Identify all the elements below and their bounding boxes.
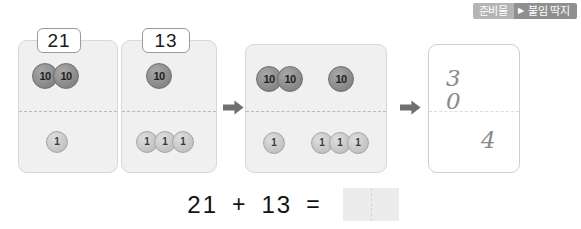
coin-group-tens: 10 10 <box>256 66 303 92</box>
card-13-ones-area: 1 1 1 <box>122 112 216 172</box>
card-13-label-text: 13 <box>154 30 177 52</box>
equation-plus-sign: + <box>232 191 247 218</box>
card-21-label-text: 21 <box>47 30 70 52</box>
coin-group-ones: 1 1 1 <box>311 132 369 154</box>
one-coin: 1 <box>46 131 68 153</box>
ten-coin: 10 <box>328 66 354 92</box>
card-combined: 10 10 10 1 1 1 1 <box>245 44 387 173</box>
materials-badge: 준비물 ▶ 붙임 딱지 <box>473 3 577 19</box>
equation-left-operand: 21 <box>187 191 218 219</box>
card-13-label-tab: 13 <box>142 28 190 53</box>
coin-group-tens: 10 10 <box>32 63 79 89</box>
badge-materials-label: 준비물 <box>473 3 514 19</box>
card-21: 10 10 1 <box>18 40 118 173</box>
card-answer[interactable]: 3 0 4 <box>428 44 520 173</box>
coin-group-tens: 10 <box>328 66 354 92</box>
answer-box-divider <box>371 188 372 221</box>
answer-ones-digit: 4 <box>481 129 496 152</box>
badge-arrow-icon: ▶ <box>514 3 527 19</box>
arrow-right-icon <box>399 99 421 115</box>
card-21-label-tab: 21 <box>37 28 81 53</box>
card-21-ones-area: 1 <box>19 112 117 172</box>
arrow-right-icon <box>222 99 244 115</box>
equation-right-operand: 13 <box>262 191 293 219</box>
coin-group-ones: 1 <box>263 132 285 154</box>
one-coin: 1 <box>263 132 285 154</box>
card-13: 10 1 1 1 <box>121 40 217 173</box>
equation-answer-input[interactable] <box>343 188 399 221</box>
equation-row: 21 + 13 = <box>0 188 581 221</box>
coin-group-ones: 1 1 1 <box>136 131 194 153</box>
coin-group-tens: 10 <box>146 63 172 89</box>
ten-coin: 10 <box>277 66 303 92</box>
ten-coin: 10 <box>53 63 79 89</box>
badge-sticker-label: 붙임 딱지 <box>527 3 577 19</box>
ten-coin: 10 <box>146 63 172 89</box>
one-coin: 1 <box>347 132 369 154</box>
card-combined-ones-area: 1 1 1 1 <box>246 114 386 172</box>
answer-tens-digits: 3 0 <box>446 67 519 113</box>
card-combined-tens-area: 10 10 10 <box>246 45 386 114</box>
worksheet-canvas: 준비물 ▶ 붙임 딱지 21 10 10 1 13 10 <box>0 0 581 229</box>
equation-equals-sign: = <box>306 191 321 218</box>
one-coin: 1 <box>172 131 194 153</box>
coin-group-ones: 1 <box>46 131 68 153</box>
